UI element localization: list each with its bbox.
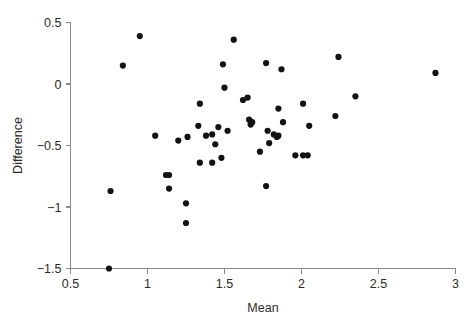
data-point — [224, 128, 230, 134]
data-point — [120, 62, 126, 68]
axes-group — [71, 23, 456, 269]
y-axis-title: Difference — [11, 117, 25, 174]
data-point — [152, 133, 158, 139]
y-tick-label: −1 — [47, 201, 61, 215]
data-point — [263, 60, 269, 66]
data-point — [166, 172, 172, 178]
y-tick-label: −1.5 — [37, 262, 62, 276]
data-point — [263, 183, 269, 189]
x-tick-label: 1 — [144, 277, 151, 291]
x-tick-label: 1.5 — [216, 277, 233, 291]
data-point — [280, 119, 286, 125]
y-axis-ticks: 0.50−0.5−1−1.5 — [37, 16, 71, 276]
x-axis-ticks: 0.511.522.53 — [62, 269, 459, 291]
x-tick-label: 0.5 — [62, 277, 79, 291]
data-point — [212, 141, 218, 147]
data-point — [305, 152, 311, 158]
data-point — [231, 37, 237, 43]
data-point — [245, 94, 251, 100]
data-point — [221, 85, 227, 91]
data-point — [220, 61, 226, 67]
data-point — [215, 124, 221, 130]
data-point — [166, 185, 172, 191]
data-point — [197, 101, 203, 107]
x-axis-title: Mean — [247, 301, 278, 315]
data-points-group — [106, 33, 439, 272]
data-point — [195, 123, 201, 129]
data-point — [275, 133, 281, 139]
y-tick-label: −0.5 — [37, 139, 62, 153]
data-point — [278, 66, 284, 72]
scatter-plot-figure: 0.511.522.53 0.50−0.5−1−1.5 Mean Differe… — [0, 0, 474, 326]
x-tick-label: 3 — [452, 277, 459, 291]
data-point — [184, 134, 190, 140]
data-point — [292, 152, 298, 158]
data-point — [275, 106, 281, 112]
data-point — [432, 70, 438, 76]
data-point — [209, 131, 215, 137]
data-point — [137, 33, 143, 39]
data-point — [106, 265, 112, 271]
plot-canvas: 0.511.522.53 0.50−0.5−1−1.5 Mean Differe… — [0, 0, 474, 326]
data-point — [332, 113, 338, 119]
data-point — [183, 220, 189, 226]
x-tick-label: 2.5 — [370, 277, 387, 291]
data-point — [197, 160, 203, 166]
data-point — [183, 200, 189, 206]
y-tick-label: 0.5 — [44, 16, 61, 30]
data-point — [218, 155, 224, 161]
data-point — [209, 160, 215, 166]
data-point — [266, 140, 272, 146]
data-point — [257, 149, 263, 155]
y-tick-label: 0 — [55, 78, 62, 92]
data-point — [352, 93, 358, 99]
data-point — [249, 119, 255, 125]
data-point — [175, 137, 181, 143]
data-point — [300, 101, 306, 107]
data-point — [306, 123, 312, 129]
data-point — [107, 188, 113, 194]
data-point — [265, 128, 271, 134]
data-point — [203, 133, 209, 139]
x-tick-label: 2 — [298, 277, 305, 291]
data-point — [335, 54, 341, 60]
